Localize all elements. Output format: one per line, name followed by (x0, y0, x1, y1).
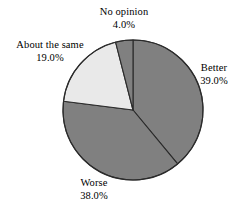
pie-label-no-opinion-value: 4.0% (74, 19, 174, 32)
pie-label-no-opinion-name: No opinion (74, 6, 174, 19)
pie-label-worse: Worse 38.0% (62, 177, 126, 202)
pie-label-no-opinion: No opinion 4.0% (74, 6, 174, 31)
pie-label-worse-value: 38.0% (62, 190, 126, 203)
pie-label-better-value: 39.0% (186, 75, 242, 88)
pie-label-better-name: Better (186, 62, 242, 75)
pie-label-worse-name: Worse (62, 177, 126, 190)
pie-label-better: Better 39.0% (186, 62, 242, 87)
pie-chart-figure: No opinion 4.0% About the same 19.0% Bet… (0, 0, 243, 216)
pie-label-about-the-same-name: About the same (2, 39, 98, 52)
pie-label-about-the-same: About the same 19.0% (2, 39, 98, 64)
pie-label-about-the-same-value: 19.0% (2, 52, 98, 65)
